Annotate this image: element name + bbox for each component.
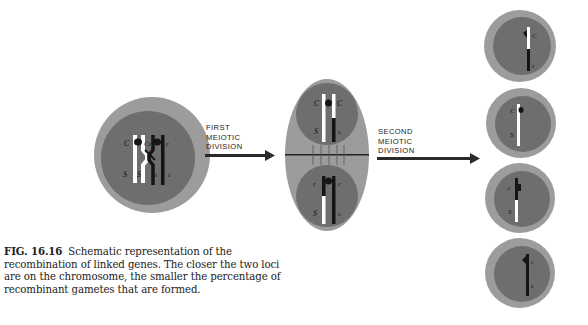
svg-text:S: S: [510, 131, 514, 139]
label-line: SECOND: [378, 127, 415, 137]
figure-number: FIG. 16.16: [4, 245, 62, 257]
svg-text:c: c: [508, 185, 511, 191]
gamete-1: C s: [484, 10, 556, 82]
label-first-division: FIRST MEIOTIC DIVISION: [206, 123, 243, 152]
svg-text:S: S: [123, 170, 127, 179]
svg-text:c: c: [531, 259, 534, 265]
svg-text:S: S: [314, 127, 318, 136]
label-line: DIVISION: [206, 142, 243, 152]
svg-text:C: C: [314, 99, 320, 108]
svg-text:C: C: [532, 32, 537, 40]
gamete-4: c s: [485, 238, 555, 308]
svg-text:c: c: [313, 181, 316, 187]
label-line: FIRST: [206, 123, 243, 133]
svg-text:c: c: [149, 141, 152, 147]
svg-text:S: S: [313, 209, 317, 218]
svg-text:C: C: [124, 139, 130, 148]
label-line: MEIOTIC: [206, 133, 243, 143]
parent-cell: C C c c S S s s: [94, 97, 210, 213]
svg-text:C: C: [510, 107, 515, 115]
svg-text:c: c: [338, 181, 341, 187]
gamete-3: c S: [485, 163, 555, 233]
svg-text:C: C: [337, 99, 343, 108]
svg-text:c: c: [166, 141, 169, 147]
label-second-division: SECOND MEIOTIC DIVISION: [378, 127, 415, 156]
svg-text:S: S: [137, 170, 141, 179]
svg-text:S: S: [508, 208, 512, 216]
gamete-2: C S: [486, 88, 556, 158]
label-line: MEIOTIC: [378, 137, 415, 147]
figure-caption: FIG. 16.16Schematic representation of th…: [4, 245, 296, 296]
first-division-cell: C C S s c c S s: [285, 79, 369, 231]
label-line: DIVISION: [378, 146, 415, 156]
